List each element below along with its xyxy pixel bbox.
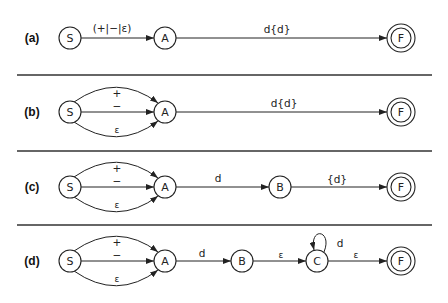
- state-f-accepting: F: [387, 98, 415, 126]
- state-b: B: [231, 250, 253, 272]
- state-a: A: [154, 27, 176, 49]
- state-label: F: [398, 106, 404, 119]
- state-label: A: [161, 106, 169, 119]
- edge-label: d: [215, 172, 222, 184]
- state-label: S: [67, 32, 74, 45]
- state-label: S: [67, 106, 74, 119]
- state-label: F: [398, 32, 404, 45]
- state-label: F: [398, 255, 404, 268]
- state-a: A: [154, 101, 176, 123]
- state-label: F: [398, 181, 404, 194]
- state-a: A: [154, 250, 176, 272]
- edge-label: ε: [115, 274, 120, 284]
- state-label: A: [161, 32, 169, 45]
- edge-label: ε: [115, 125, 120, 135]
- state-a: A: [154, 176, 176, 198]
- edge-label: −: [113, 100, 122, 112]
- state-s: S: [59, 250, 81, 272]
- state-label: B: [238, 255, 246, 268]
- edge-label: d{d}: [264, 23, 291, 35]
- edge-label: d: [337, 237, 344, 249]
- row-label: (d): [24, 254, 39, 268]
- edge-label: +: [113, 162, 122, 174]
- state-label: S: [67, 181, 74, 194]
- state-label: A: [161, 181, 169, 194]
- edge-label: −: [113, 249, 122, 261]
- edge-label: +: [113, 87, 122, 99]
- state-s: S: [59, 176, 81, 198]
- edge-label: ε: [115, 200, 120, 210]
- row-label: (a): [25, 31, 40, 45]
- row-label: (c): [25, 180, 40, 194]
- state-label: B: [276, 181, 284, 194]
- state-label: C: [313, 255, 321, 268]
- state-f-accepting: F: [387, 24, 415, 52]
- state-label: A: [161, 255, 169, 268]
- edge-label: (+|−|ε): [93, 22, 132, 35]
- edge-label: +: [113, 236, 122, 248]
- state-b: B: [269, 176, 291, 198]
- state-label: S: [67, 255, 74, 268]
- state-c: C: [306, 250, 328, 272]
- edge-label: {d}: [327, 173, 347, 185]
- automata-figure: (a) (+|−|ε) d{d} S A F (b) + − ε d{d}: [0, 0, 448, 303]
- state-f-accepting: F: [387, 247, 415, 275]
- edge-label: ε: [354, 250, 359, 260]
- row-label: (b): [24, 105, 39, 119]
- state-s: S: [59, 101, 81, 123]
- state-s: S: [59, 27, 81, 49]
- edge-label: d{d}: [271, 97, 298, 109]
- state-f-accepting: F: [387, 173, 415, 201]
- edge-label: ε: [279, 250, 284, 260]
- edge-label: d: [199, 247, 206, 259]
- edge-label: −: [113, 175, 122, 187]
